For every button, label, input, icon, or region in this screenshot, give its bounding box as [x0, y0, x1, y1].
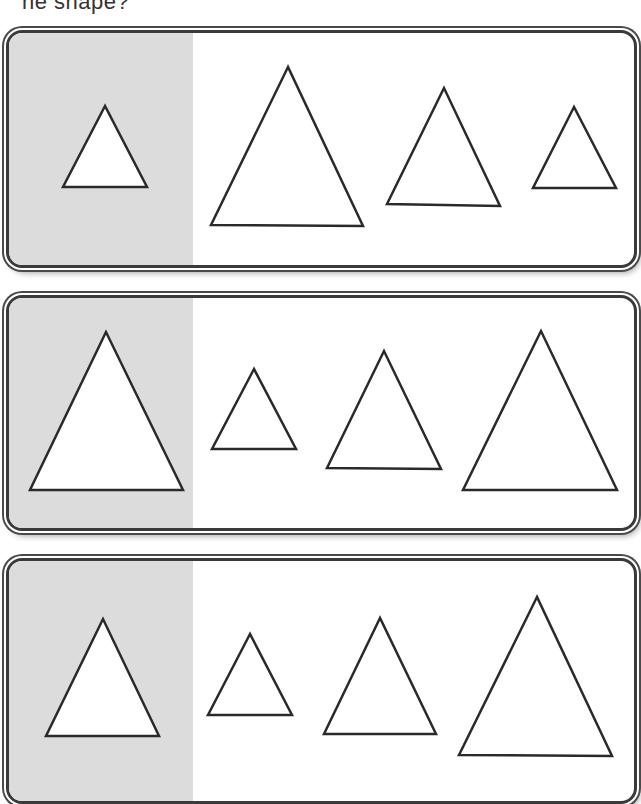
choice-triangle-3[interactable] [459, 597, 612, 756]
choice-triangle-2[interactable] [324, 618, 436, 734]
choice-triangle-3[interactable] [463, 331, 617, 490]
shape-row-2 [6, 295, 637, 531]
choice-triangle-1[interactable] [212, 369, 296, 449]
shape-row-3 [6, 558, 637, 804]
sample-triangle [63, 106, 147, 187]
sample-triangle [46, 619, 159, 736]
shape-row-1 [6, 30, 637, 268]
choice-triangle-2[interactable] [327, 351, 441, 469]
choice-triangle-3[interactable] [533, 107, 616, 188]
choice-triangle-1[interactable] [211, 67, 363, 226]
choice-triangle-2[interactable] [387, 88, 500, 206]
row-3-shapes [9, 561, 637, 801]
choice-triangle-1[interactable] [208, 634, 292, 715]
row-2-shapes [9, 298, 637, 531]
question-prompt: ne shape? [22, 0, 129, 15]
row-1-shapes [9, 33, 637, 268]
sample-triangle [30, 332, 183, 490]
